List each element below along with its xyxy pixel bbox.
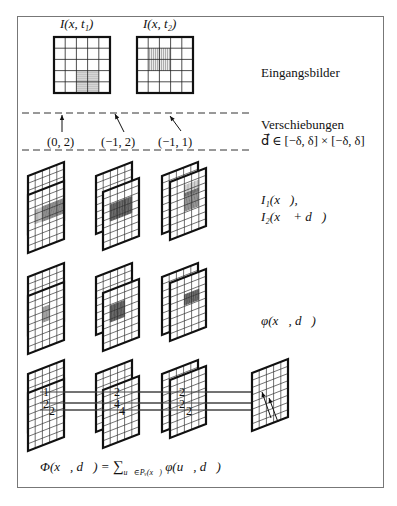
shift-arrow-0-head [60,115,64,120]
shift-vector-1: (−1, 2) [101,134,135,150]
label-input-images: Eingangsbilder [261,65,340,81]
label-products: φ(x⃗, d⃗) [261,313,316,329]
label-shifts: Verschiebungen [261,117,344,133]
input-image-title-t1: I(x, t₁) [60,16,93,32]
formula: Φ(x⃗, d⃗) = ∑u⃗∈Pᵥ(x⃗) φ(u⃗, d⃗) [40,458,221,481]
formula-subscript: u⃗∈Pᵥ(x⃗) [124,468,162,477]
label-stacked-i1: I₁(x⃗), [261,192,298,208]
formula-lhs: Φ(x⃗, d⃗) = [40,459,113,474]
sum-number-c1-2: 4 [119,403,125,419]
label-shift-range: d⃗ ∈ [−δ, δ] × [−δ, δ] [261,133,365,149]
label-stacked-i2: I₂(x⃗ + d⃗) [261,209,326,225]
input-image-grid-0 [54,37,110,93]
sum-number-c0-2: 2 [49,403,55,419]
shift-vector-0: (0, 2) [47,134,74,150]
formula-sum: ∑ [113,458,124,474]
input-image-title-t2: I(x, t₂) [143,16,176,32]
sum-number-c2-2: 2 [186,403,192,419]
input-image-grid-1 [137,37,193,93]
shift-vector-2: (−1, 1) [158,134,192,150]
sum-number-c2-1: 2 [179,396,185,412]
formula-rhs: φ(u⃗, d⃗) [162,459,221,474]
shift-arrow-2-head [170,116,175,121]
